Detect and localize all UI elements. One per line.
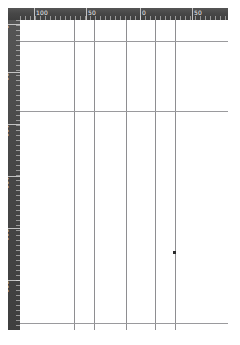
canvas-marker-0[interactable]	[173, 251, 176, 254]
guide-vertical-3[interactable]	[155, 20, 156, 330]
guide-vertical-4[interactable]	[175, 20, 176, 330]
horizontal-ruler-label-3: 50	[194, 9, 202, 16]
page-sheet[interactable]	[20, 20, 228, 330]
vertical-ruler-label-4: 200	[8, 229, 10, 241]
guide-horizontal-1[interactable]	[20, 111, 228, 112]
page-edge	[20, 20, 228, 330]
vertical-ruler-label-0: 0	[8, 25, 10, 29]
guide-horizontal-2[interactable]	[20, 323, 228, 324]
guide-vertical-2[interactable]	[126, 20, 127, 330]
horizontal-ruler[interactable]: 10050050	[20, 8, 228, 20]
horizontal-tick-0	[34, 8, 35, 20]
guide-horizontal-0[interactable]	[20, 41, 228, 42]
vertical-ruler-label-3: 150	[8, 177, 10, 189]
guide-vertical-0[interactable]	[74, 20, 75, 330]
horizontal-tick-2	[140, 8, 141, 20]
horizontal-ruler-label-2: 0	[142, 9, 146, 16]
horizontal-ruler-label-1: 50	[88, 9, 96, 16]
editor-frame: 10050050 050100150200250	[8, 8, 232, 338]
vertical-ruler-label-1: 50	[8, 73, 10, 81]
vertical-ruler-label-2: 100	[8, 125, 10, 137]
vertical-ruler[interactable]: 050100150200250	[8, 20, 20, 330]
guide-vertical-1[interactable]	[94, 20, 95, 330]
horizontal-tick-1	[86, 8, 87, 20]
app-root: 10050050 050100150200250	[0, 0, 240, 345]
horizontal-tick-3	[192, 8, 193, 20]
horizontal-ruler-label-0: 100	[36, 9, 48, 16]
ruler-corner-box[interactable]	[8, 8, 20, 20]
canvas-viewport[interactable]	[20, 20, 228, 330]
vertical-ruler-label-5: 250	[8, 281, 10, 293]
